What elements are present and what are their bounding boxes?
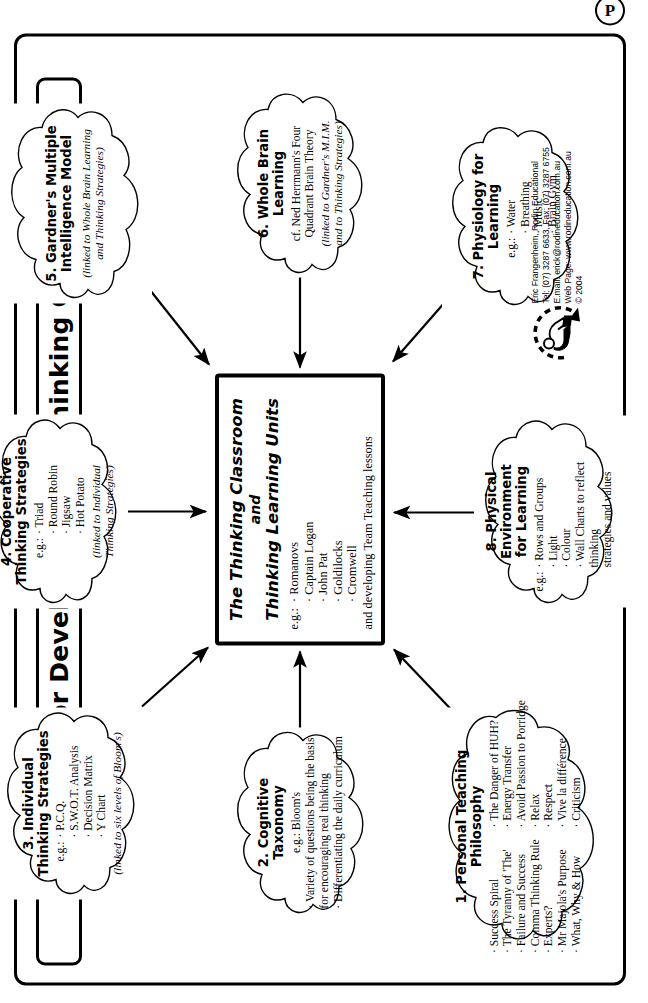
list-item: Cromwell (345, 521, 359, 602)
cloud-4-list: TriadRound RobinJigsawHot Potato (33, 465, 88, 534)
credits-line-1: Eric Frangenheim, Rodin Educational (530, 53, 541, 303)
poster-page: P Framework for Developing the “Thinking… (0, 0, 648, 1003)
cloud-3-eg-label: e.g.: (54, 841, 68, 861)
list-item: Wall Charts to reflect thinking strategi… (574, 431, 615, 567)
central-title-line2: Thinking Learning Units (264, 389, 282, 629)
list-item: Water (505, 175, 519, 234)
cloud-2-title: 2. Cognitive Taxonomy (257, 743, 287, 901)
credits-line-2: Tel: (07) 3287 6633, Fax: (07) 3287 6755 (541, 53, 552, 303)
list-item: Mr Majola's Purpose (556, 839, 570, 952)
cloud-4[interactable]: 4. Cooperative Thinking Strategies e.g.:… (0, 414, 128, 608)
list-item: Jigsaw (60, 465, 74, 534)
list-item: Captain Logan (302, 521, 316, 602)
cloud-2-list: Variety of questions being the basis for… (304, 736, 345, 908)
credits-line-4: Web Page: www.rodineducation.com.au (563, 53, 574, 303)
cloud-4-eg-label: e.g.: (33, 537, 47, 557)
cloud-6-body: cf. Ned Herrmann's Four Quadrant Brain T… (290, 125, 317, 240)
central-title-and: and (248, 389, 263, 629)
cloud-2-lead: e.g.: Bloom's (290, 736, 304, 908)
list-item: P.C.Q. (54, 745, 68, 837)
list-item: Respect (542, 700, 556, 827)
cloud-6-title: 6. Whole Brain Learning (257, 105, 287, 261)
cloud-1-list-left: Success SpiralThe Tyranny of 'The'Failur… (488, 839, 584, 952)
central-node[interactable]: The Thinking Classroom and Thinking Lear… (215, 373, 385, 645)
list-item: Success Spiral (488, 839, 502, 952)
cloud-1-list-right: The Danger of HUH?Energy TransferAvoid P… (488, 700, 584, 827)
central-examples: e.g.: RomanovsCaptain LoganJohn PatGoldi… (287, 389, 359, 629)
credits-block: Eric Frangenheim, Rodin Educational Tel:… (530, 53, 585, 303)
cloud-5-note: (linked to Whole Brain Learning and Thin… (80, 129, 106, 278)
cloud-8[interactable]: 8. Physical Environment for Learning e.g… (474, 415, 626, 607)
credits-line-5: © 2004 (574, 53, 585, 303)
list-item: The Tyranny of 'The' (501, 839, 515, 952)
list-item: Hot Potato (74, 465, 88, 534)
cloud-8-list: Rows and GroupsLightColourWall Charts to… (533, 431, 615, 567)
list-item: Comma Thinking Rule (529, 839, 543, 952)
list-item: Vive la différence (556, 700, 570, 827)
cloud-8-title: 8. Physical Environment for Learning (485, 431, 530, 591)
cloud-3-title: 3. Individual Thinking Strategies (22, 730, 52, 876)
list-item: Triad (33, 465, 47, 534)
cloud-8-body: e.g.: Rows and GroupsLightColourWall Cha… (533, 431, 615, 591)
list-item: John Pat (316, 521, 330, 602)
list-item: Romanovs (287, 521, 301, 602)
cloud-7-title: 7. Physiology for Learning (472, 139, 502, 293)
cloud-3-list: P.C.Q.S.W.O.T. AnalysisDecision MatrixY … (54, 745, 109, 837)
list-item: Experts? (542, 839, 556, 952)
list-item: Round Robin (47, 465, 61, 534)
cloud-3-body: e.g.: P.C.Q.S.W.O.T. AnalysisDecision Ma… (54, 745, 109, 861)
poster-canvas: P Framework for Developing the “Thinking… (0, 0, 648, 1003)
list-item: Failure and Success (515, 839, 529, 952)
cloud-1[interactable]: 1. Personal Teaching Philosophy Success … (438, 707, 600, 945)
cloud-3-note: (linked to six levels of Bloom's) (111, 732, 124, 875)
rodin-thinker-logo (524, 301, 586, 363)
list-item: Avoid Passion to Porridge (515, 700, 529, 827)
cloud-1-body: Success SpiralThe Tyranny of 'The'Failur… (488, 700, 584, 953)
list-item: Y Chart (95, 745, 109, 837)
cloud-1-title: 1. Personal Teaching Philosophy (455, 723, 485, 929)
list-item: Decision Matrix (82, 745, 96, 837)
list-item: Goldilocks (331, 521, 345, 602)
cloud-5[interactable]: 5. Gardner's Multiple Intelligence Model… (0, 103, 152, 303)
list-item: What, Why & How (570, 839, 584, 952)
arrow-cloud1-to-center (394, 649, 455, 713)
arrow-cloud5-to-center (148, 287, 209, 364)
central-example-list: RomanovsCaptain LoganJohn PatGoldilocksC… (287, 521, 359, 602)
list-item: The Danger of HUH? (488, 700, 502, 827)
list-item: Energy Transfer (501, 700, 515, 827)
cloud-3[interactable]: 3. Individual Thinking Strategies e.g.: … (0, 707, 148, 899)
central-title-line1: The Thinking Classroom (228, 389, 246, 629)
cloud-5-title: 5. Gardner's Multiple Intelligence Model (45, 125, 75, 282)
cloud-8-eg-label: e.g.: (533, 571, 547, 591)
credits-line-3: E.mail: erick@rodineducation.com.au (552, 53, 563, 303)
list-item: Rows and Groups (533, 431, 547, 567)
cloud-6[interactable]: 6. Whole Brain Learning cf. Ned Herrmann… (228, 89, 374, 277)
list-item: Light (547, 431, 561, 567)
cloud-4-body: e.g.: TriadRound RobinJigsawHot Potato (33, 465, 88, 558)
cloud-6-lines: cf. Ned Herrmann's Four Quadrant Brain T… (290, 125, 317, 240)
arrow-cloud3-to-center (142, 647, 208, 706)
list-item: Colour (560, 431, 574, 567)
list-item: Relax (529, 700, 543, 827)
list-item: Criticism (570, 700, 584, 827)
list-item: Differentiating the daily curriculum (332, 736, 346, 908)
list-item: Variety of questions being the basis for… (304, 736, 331, 908)
cloud-4-note: (linked to Individual Thinking Strategie… (90, 465, 116, 558)
central-eg-label: e.g.: (287, 608, 301, 629)
cloud-2[interactable]: 2. Cognitive Taxonomy e.g.: Bloom's Vari… (226, 727, 376, 917)
cloud-4-title: 4. Cooperative Thinking Strategies (0, 438, 30, 584)
cloud-7-eg-label: e.g.: (505, 237, 519, 257)
cloud-2-body: e.g.: Bloom's Variety of questions being… (290, 736, 346, 908)
list-item: S.W.O.T. Analysis (68, 745, 82, 837)
cloud-6-note: (linked to Gardner's M.I.M. and to Think… (319, 120, 345, 246)
central-footnote: and developing Team Teaching lessons (361, 389, 376, 629)
